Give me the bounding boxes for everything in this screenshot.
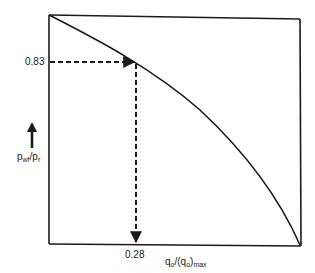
- x-axis-label-mid: /(q: [174, 256, 186, 267]
- top-border: [49, 15, 300, 19]
- y-axis-label: pwf/pr: [17, 152, 40, 165]
- y-tick-label: 0.83: [25, 57, 44, 67]
- x-tick-label: 0.28: [125, 250, 144, 260]
- chart-canvas: [0, 0, 315, 273]
- up-arrow-icon: [27, 122, 37, 148]
- plot-frame: [49, 15, 301, 246]
- x-axis-label: qo/(qo)max: [165, 257, 207, 270]
- ipr-curve: [49, 15, 300, 245]
- x-axis-label-sub3: max: [193, 261, 206, 268]
- y-axis-label-slash: /p: [30, 151, 38, 162]
- right-border: [300, 19, 301, 246]
- y-axis-label-sub2: r: [38, 156, 40, 163]
- y-axis-label-sub1: wf: [23, 156, 30, 163]
- x-axis-line: [49, 244, 301, 246]
